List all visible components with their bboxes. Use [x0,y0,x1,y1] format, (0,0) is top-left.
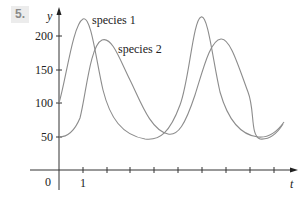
population-chart: y t 0 1 200 150 100 50 species 1 species… [0,0,306,198]
y-tick-label-50: 50 [41,130,53,144]
x-axis-arrow-icon [290,168,298,173]
species-1-annotation: species 1 [92,13,136,27]
axes [30,10,294,190]
y-axis-label: y [46,9,53,23]
y-tick-label-150: 150 [35,63,53,77]
y-tick-label-200: 200 [35,29,53,43]
species-2-annotation: species 2 [118,42,162,56]
x-tick-label-1: 1 [80,176,86,190]
species-1-line [59,17,284,139]
origin-label: 0 [45,175,51,189]
x-axis-label: t [290,177,294,191]
y-axis-arrow-icon [57,7,62,15]
y-tick-label-100: 100 [35,96,53,110]
